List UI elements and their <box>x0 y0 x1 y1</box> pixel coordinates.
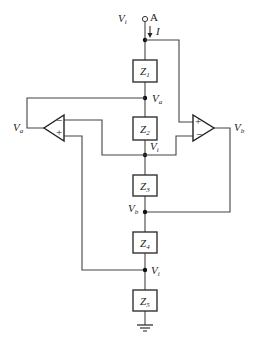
node-va: Va <box>143 92 163 106</box>
wire-va-feedback <box>27 98 145 128</box>
svg-text:+: + <box>195 115 201 127</box>
impedance-z3: Z3 <box>133 175 157 196</box>
svg-text:Va: Va <box>152 92 163 106</box>
node-vb: Vb <box>128 202 147 216</box>
current-arrow-icon: I <box>148 25 162 38</box>
svg-text:Vb: Vb <box>128 202 139 216</box>
circuit-diagram: Vi A I Z1 Va Z2 Vi − + Va <box>0 0 258 349</box>
wire-vb-feedback <box>145 128 230 212</box>
svg-text:I: I <box>155 25 161 37</box>
svg-text:Vb: Vb <box>234 121 245 135</box>
svg-text:−: − <box>196 128 202 140</box>
impedance-z2: Z2 <box>133 117 157 140</box>
impedance-z1: Z1 <box>133 60 157 82</box>
svg-text:Vi: Vi <box>151 264 160 278</box>
svg-text:Vi: Vi <box>150 140 159 154</box>
svg-text:A: A <box>150 11 158 23</box>
ground-icon <box>137 325 153 331</box>
impedance-z4: Z4 <box>133 232 157 253</box>
terminal-a: Vi A <box>118 11 158 26</box>
impedance-z5: Z5 <box>133 290 157 311</box>
svg-text:Vi: Vi <box>118 12 127 26</box>
svg-text:−: − <box>56 114 62 126</box>
svg-text:Va: Va <box>13 121 24 135</box>
svg-text:+: + <box>56 126 62 138</box>
